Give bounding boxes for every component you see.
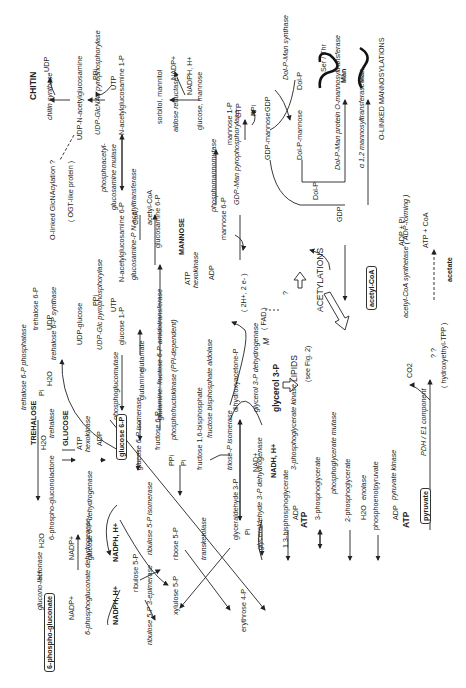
dol-p-man-synthase-enzyme: Dol-P-Man synthase xyxy=(282,15,289,80)
mannose-hexokinase-enzyme: hexokinase xyxy=(192,252,199,288)
acetylations-label: ACETYLATIONS xyxy=(316,248,325,312)
glucose-6p-isomerase-enzyme: glucose 6-P isomerase xyxy=(135,397,142,470)
n-acetylglucosamine-1p-label: N-acetylglucosamine 1-P xyxy=(118,55,125,135)
man-label-2: Man xyxy=(358,69,365,83)
glucose-hexokinase-enzyme: hexokinase xyxy=(84,416,91,452)
erythrose-4p-label: erythrose 4-P xyxy=(240,589,247,632)
glucosamine-6p-label: glucosamine 6-P xyxy=(154,194,161,248)
ribose-5p-label: ribose 5-P xyxy=(172,527,179,560)
mannose-label: MANNOSE xyxy=(178,218,185,255)
phosphoglucomutase-enzyme: phosphoglucomutase xyxy=(112,352,119,420)
enolase-h2o-label: H2O xyxy=(360,505,367,520)
fad-label: ( FAD ) xyxy=(260,307,267,330)
6-phosphogluconate-dehydrogenase-enzyme: 6-phosphogluconate dehydrogenase xyxy=(84,518,91,635)
glyceraldehyde-3p-label: glyceraldehyde 3-P xyxy=(232,478,239,540)
glucono-lactonase-enzyme: glucono-lactonase xyxy=(36,552,43,610)
udp-glucose-label: UDP-glucose xyxy=(76,303,83,345)
man-label-1: Man xyxy=(340,69,347,83)
trehalose-label: TREHALOSE xyxy=(30,401,37,445)
fructose-16-bisphosphate-label: fructose 1,6-bisphosphate xyxy=(196,387,203,470)
3-phosphoglycerate-kinase-enzyme: 3-phosphoglycerate kinase xyxy=(290,384,297,470)
udp-glcnac-pyrophosphorylase-enzyme: UDP-GlcNAc pyrophosphorylase xyxy=(94,30,101,135)
trehalose-pi-label: Pi xyxy=(38,390,45,396)
see-fig-2-label: (see Fig. 2) xyxy=(304,346,311,382)
acetyl-coa-box: acetyl-CoA xyxy=(366,266,377,310)
mitochondrion-m-label: M xyxy=(262,338,271,345)
trehalose-h2o2-label: H2O xyxy=(46,371,53,386)
phosphoglycerate-mutase-enzyme: phosphoglycerate mutase xyxy=(330,412,337,494)
pgk-atp-label: ATP xyxy=(300,512,309,528)
nadph-label: NADPH, H+ xyxy=(186,56,193,95)
gdp-label: GDP xyxy=(264,96,271,112)
nadp-2-label: NADP+ xyxy=(68,596,75,620)
pyruvate-kinase-enzyme: pyruvate kinase xyxy=(390,450,397,500)
triose-p-isomerase-enzyme: triose-P isomerase xyxy=(226,410,233,470)
dihydroxyacetone-p-label: dihydroxyacetone-P xyxy=(232,348,239,412)
metabolic-pathway-diagram: CHITIN UDP chitin synthase UDP-N-acetylg… xyxy=(0,0,466,688)
udp-n-acetylglucosamine-label: UDP-N-acetylglucosamine xyxy=(76,56,83,140)
dol-p-mannose-label: Dol-P-mannose xyxy=(296,110,303,160)
transketolase-enzyme: transketolase xyxy=(200,517,207,560)
phosphofructokinase-enzyme: phosphofructokinase (PPi-dependent) xyxy=(170,319,177,440)
glucosamine-p-n-acetyltransferase-enzyme: glucosamine-P N-acetyltransferase xyxy=(130,168,137,280)
ribulose-5p-isomerase-enzyme: ribulose 5-P isomerase xyxy=(146,482,153,555)
xylulose-5p-label: xylulose 5-P xyxy=(172,576,179,615)
glutamate-label: glutamate xyxy=(138,340,145,372)
hydroxyethyl-tpp-label: ( hydroxyethyl-TPP ) xyxy=(440,323,447,388)
glycerol-3p-label: glycerol 3-P xyxy=(272,364,281,412)
nadph-2-label: NADPH, H+ xyxy=(112,586,119,625)
mannose-6p-label: mannose 6-P xyxy=(220,197,227,240)
pfk-pi-label: Pi xyxy=(180,460,187,466)
o-linked-mannosylations-label: O-LINKED MANNOSYLATIONS xyxy=(378,37,385,140)
atp-coa-label: ATP + CoA xyxy=(422,213,429,249)
pfk-ppi-label: PPi xyxy=(168,455,175,466)
glutamine-label: glutamine xyxy=(138,369,145,400)
o-linked-glcnacylation-label: O-linked GlcNAcylation ? xyxy=(49,160,56,240)
chitin-synthase-enzyme: chitin synthase xyxy=(46,72,53,120)
co2-label: CO2 xyxy=(406,363,413,378)
gapdh-enzyme: glyceraldehyde 3-P dehydrogenase xyxy=(256,437,263,550)
dol-p-label: Dol-P xyxy=(296,72,303,90)
gapdh-pi-label: Pi xyxy=(244,529,251,535)
nadh-label: NADH, H+ xyxy=(270,444,277,478)
glucose-adp-label: ADP xyxy=(96,431,103,446)
nadph-1-label: NADPH, H+ xyxy=(112,523,119,562)
phosphoacetyl-label: phosphoacetyl- xyxy=(100,143,107,192)
gdp-man-pyrophosphorylase-enzyme: GDP-Man pyrophosphorylase xyxy=(233,110,240,205)
pk-atp-label: ATP xyxy=(402,512,411,528)
glucose-6p-box: glucose 6-P xyxy=(116,414,127,460)
phosphomannomutase-enzyme: phosphomannomutase xyxy=(210,139,217,212)
glucose-label: GLUCOSE xyxy=(62,410,69,446)
trehalose-6p-synthase-enzyme: trehalose 6-P synthase xyxy=(50,287,57,360)
udp-label: UDP xyxy=(43,57,50,72)
gdp-out-label: GDP xyxy=(336,206,343,222)
aldose-reductase-enzyme: aldose reductase xyxy=(172,77,179,132)
glucosamine-mutase-enzyme: glucosamine mutase xyxy=(110,144,117,210)
nadp-1-label: NADP+ xyxy=(68,536,75,560)
ppp-h2o-label: H2O xyxy=(38,533,45,548)
electrons-label: ( 2H+, 2 e- ) xyxy=(240,273,247,312)
2-phosphoglycerate-label: 2-phosphoglycerate xyxy=(344,459,351,522)
trehalose-6p-label: trehalose 6-P xyxy=(32,287,39,330)
chitin-label: CHITIN xyxy=(29,72,38,100)
glucose-1p-label: glucose 1-P xyxy=(118,307,125,345)
trehalose-6p-phosphatase-enzyme: trehalose 6-P phosphatase xyxy=(20,324,27,410)
pdh-e1-component-enzyme: PDH / E1 component xyxy=(420,388,427,456)
pyruvate-box: pyruvate xyxy=(420,488,431,524)
fructose-bisphosphate-aldolase-enzyme: fructose bisphosphate aldolase xyxy=(206,339,213,438)
question-mark-label: ? xyxy=(282,291,289,295)
lipids-label: LIPIDS xyxy=(290,355,299,382)
glucose-mannose-label: glucose, mannose xyxy=(196,72,203,130)
pk-adp-label: ADP xyxy=(392,505,399,520)
dol-p-out-label: Dol-P xyxy=(312,182,319,200)
ribulose-5p-3-epimerase-enzyme: ribulose 5-P 3-epimerase xyxy=(146,565,153,645)
ogt-like-protein-label: ( OGT-like protein ) xyxy=(67,161,74,222)
6-phosphogluconate-box: 6-phospho-gluconate xyxy=(44,593,55,672)
gdp-mannose-label: GDP-mannose xyxy=(264,112,271,160)
udp-glc-pyrophosphorylase-enzyme: UDP-Glc pyrophosphorylase xyxy=(96,259,103,350)
mannose-ppi-label: PPi xyxy=(250,105,257,116)
ser-thr-label: Ser / Thr xyxy=(320,44,327,72)
alpha-1-2-mannosyltransferase-enzyme: α 1,2 mannosyltransferase xyxy=(358,83,365,168)
trehalase-enzyme: trehalase xyxy=(48,408,55,438)
mannose-adp-label: ADP xyxy=(208,265,215,280)
